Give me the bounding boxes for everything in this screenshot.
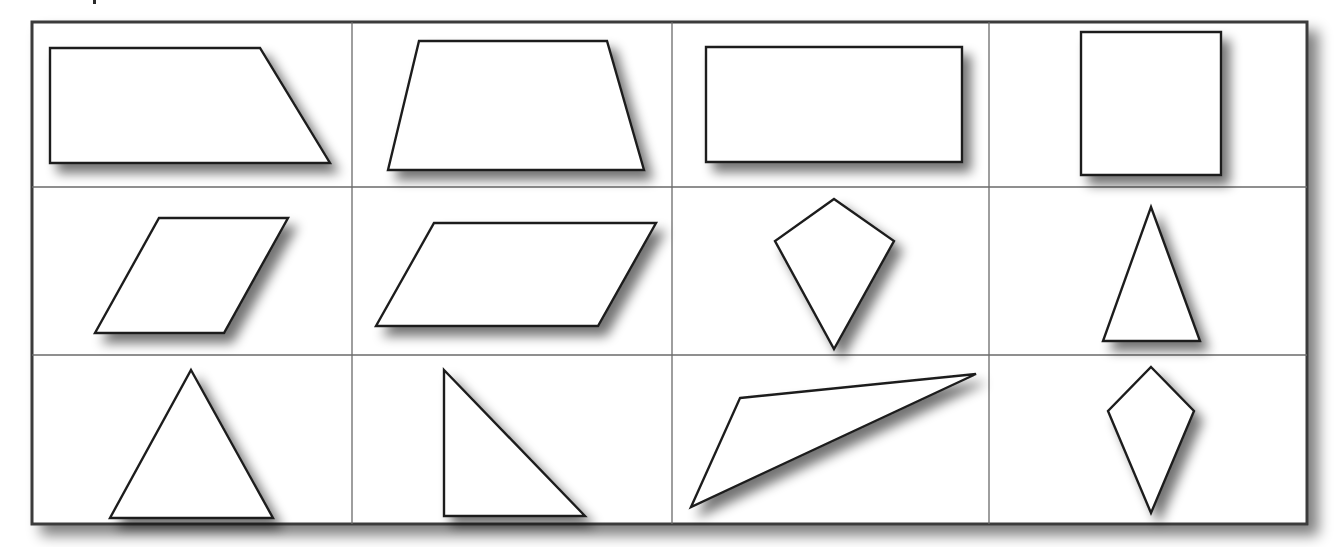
shape-isosceles-trapezoid (388, 41, 644, 170)
shape-square (1081, 32, 1221, 175)
shapes-grid-diagram (0, 0, 1339, 547)
shapes-figure (0, 0, 1339, 547)
shape-rectangle (706, 47, 962, 162)
